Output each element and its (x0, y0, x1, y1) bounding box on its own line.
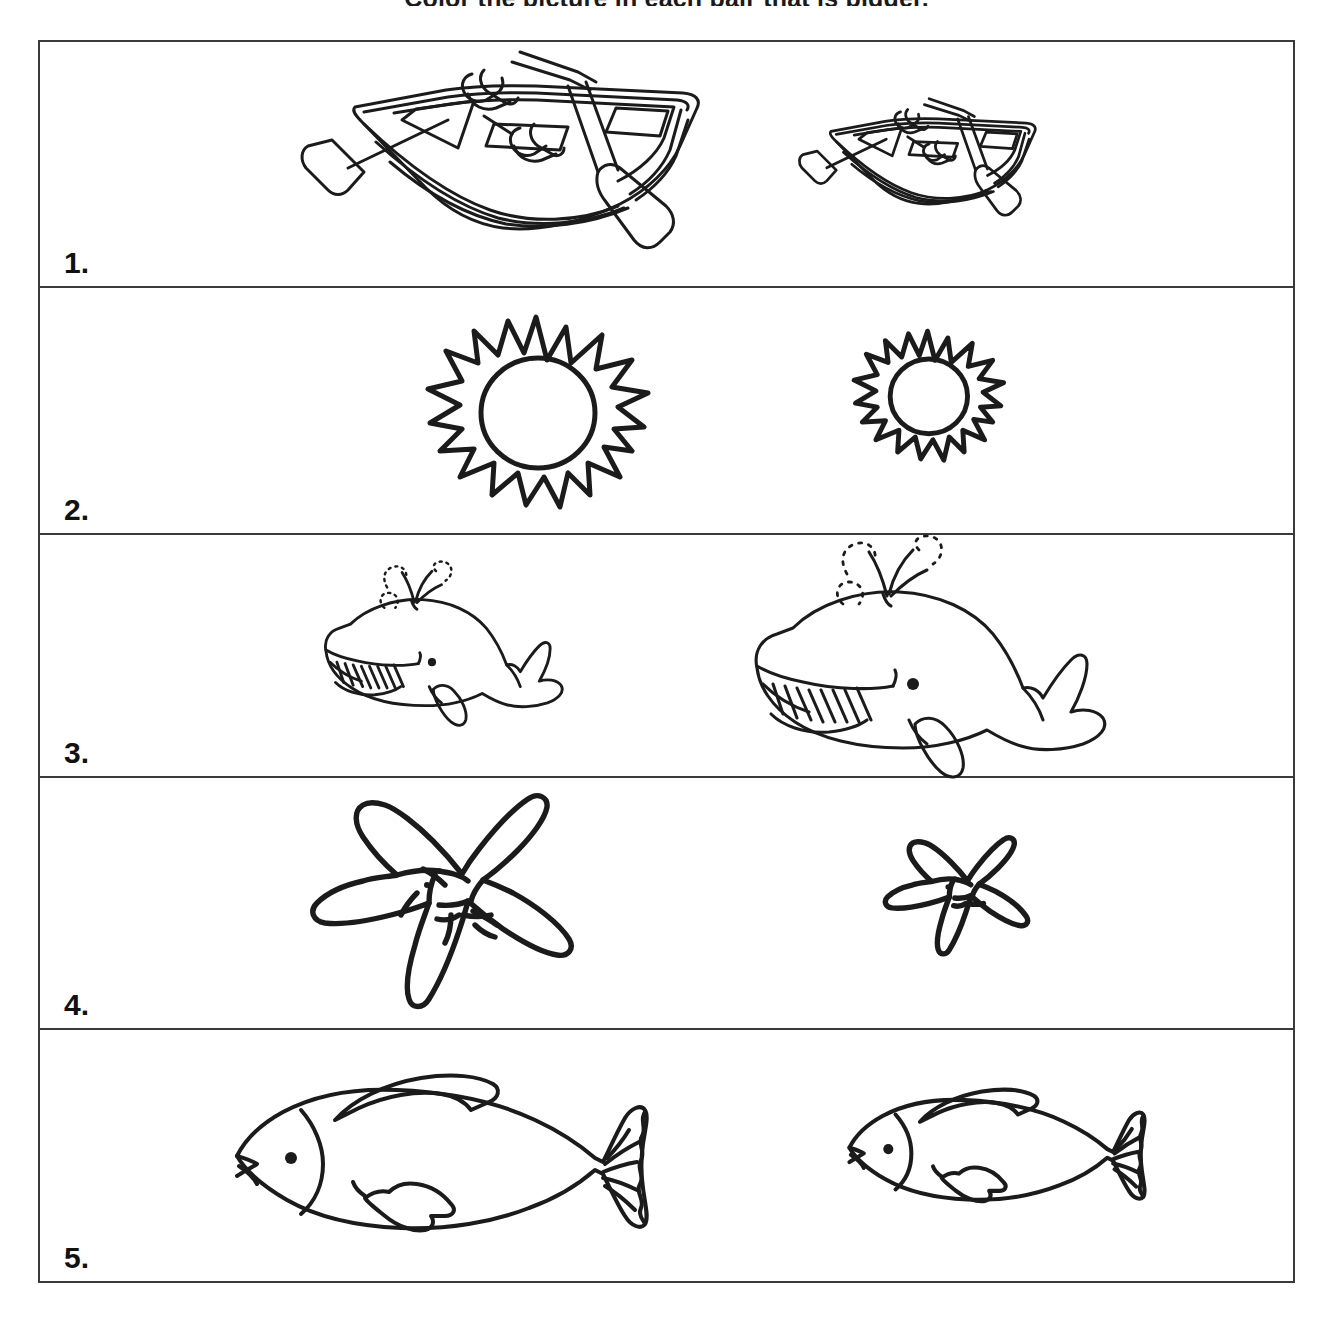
whale-large-figure[interactable] (687, 538, 1117, 803)
worksheet-table: 1. (38, 40, 1295, 1283)
worksheet-row-1: 1. (40, 42, 1293, 288)
figure-pair-whales (40, 535, 1293, 776)
sun-small-figure[interactable] (846, 323, 1009, 469)
starfish-small-figure[interactable] (881, 834, 1049, 962)
fish-small-figure[interactable] (835, 1077, 1152, 1214)
boat-large-figure[interactable] (298, 50, 718, 270)
starfish-large-figure[interactable] (305, 789, 610, 1021)
whale-small-figure[interactable] (278, 563, 571, 743)
figure-pair-fish (40, 1030, 1293, 1281)
worksheet-row-4: 4. (40, 778, 1293, 1030)
worksheet-row-3: 3. (40, 535, 1293, 778)
worksheet-title: Color the picture in each pair that is b… (0, 0, 1333, 6)
sun-large-figure[interactable] (416, 305, 656, 520)
figure-pair-suns (40, 288, 1293, 533)
figure-pair-boats (40, 42, 1293, 286)
boat-small-figure[interactable] (797, 97, 1047, 229)
worksheet-row-5: 5. (40, 1030, 1293, 1281)
worksheet-row-2: 2. (40, 288, 1293, 535)
fish-large-figure[interactable] (217, 1058, 657, 1248)
figure-pair-starfish (40, 778, 1293, 1028)
